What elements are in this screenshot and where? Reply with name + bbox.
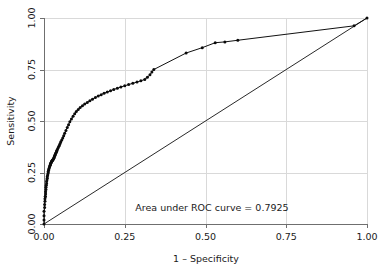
roc-data-point	[43, 203, 46, 206]
chart-annotations: Area under ROC curve = 0.7925	[135, 202, 288, 213]
roc-data-point	[106, 90, 109, 93]
roc-data-point	[119, 86, 122, 89]
roc-data-point	[236, 39, 239, 42]
y-tick-label-1.00: 1.00	[26, 7, 37, 28]
roc-data-point	[43, 218, 46, 221]
roc-data-point	[66, 126, 69, 129]
x-tick-label-0.50: 0.50	[195, 231, 216, 242]
roc-data-point	[123, 84, 126, 87]
roc-data-point	[70, 117, 73, 120]
roc-data-point	[100, 93, 103, 96]
roc-data-point	[223, 40, 226, 43]
roc-data-point	[43, 206, 46, 209]
y-axis-title: Sensitivity	[5, 96, 16, 146]
y-tick-label-0.50: 0.50	[26, 110, 37, 131]
roc-data-point	[63, 132, 66, 135]
roc-data-point	[83, 103, 86, 106]
x-tick-label-0.25: 0.25	[114, 231, 135, 242]
y-tick-label-0.75: 0.75	[26, 59, 37, 80]
roc-data-point	[116, 87, 119, 90]
roc-data-point	[201, 46, 204, 49]
roc-data-point	[72, 115, 75, 118]
plot-background	[0, 0, 380, 269]
roc-data-point	[146, 76, 149, 79]
roc-data-point	[139, 79, 142, 82]
roc-data-point	[43, 210, 46, 213]
roc-data-point	[112, 88, 115, 91]
auc-annotation: Area under ROC curve = 0.7925	[135, 202, 288, 213]
chart-canvas: 0.000.250.500.751.00 0.000.250.500.751.0…	[0, 0, 380, 269]
roc-data-point	[43, 214, 46, 217]
roc-data-point	[366, 17, 369, 20]
roc-data-point	[143, 78, 146, 81]
roc-data-point	[185, 52, 188, 55]
roc-data-point	[127, 83, 130, 86]
roc-data-point	[214, 41, 217, 44]
y-tick-label-0.25: 0.25	[26, 162, 37, 183]
roc-data-point	[91, 98, 94, 101]
roc-data-point	[131, 82, 134, 85]
x-tick-label-0.75: 0.75	[276, 231, 297, 242]
roc-data-point	[353, 24, 356, 27]
roc-data-point	[103, 92, 106, 95]
roc-data-point	[43, 223, 46, 226]
roc-chart-figure: 0.000.250.500.751.00 0.000.250.500.751.0…	[0, 0, 380, 269]
roc-data-point	[94, 96, 97, 99]
roc-data-point	[88, 99, 91, 102]
roc-data-point	[86, 101, 89, 104]
roc-data-point	[64, 129, 67, 132]
roc-data-point	[152, 68, 155, 71]
y-tick-label-0.00: 0.00	[26, 213, 37, 234]
roc-data-point	[136, 81, 139, 84]
roc-data-point	[148, 73, 151, 76]
roc-data-point	[109, 89, 112, 92]
roc-data-point	[97, 95, 100, 98]
x-tick-label-1.00: 1.00	[356, 231, 377, 242]
x-axis-title: 1 – Specificity	[173, 253, 239, 264]
roc-data-point	[150, 70, 153, 73]
roc-data-point	[67, 123, 70, 126]
roc-data-point	[68, 120, 71, 123]
